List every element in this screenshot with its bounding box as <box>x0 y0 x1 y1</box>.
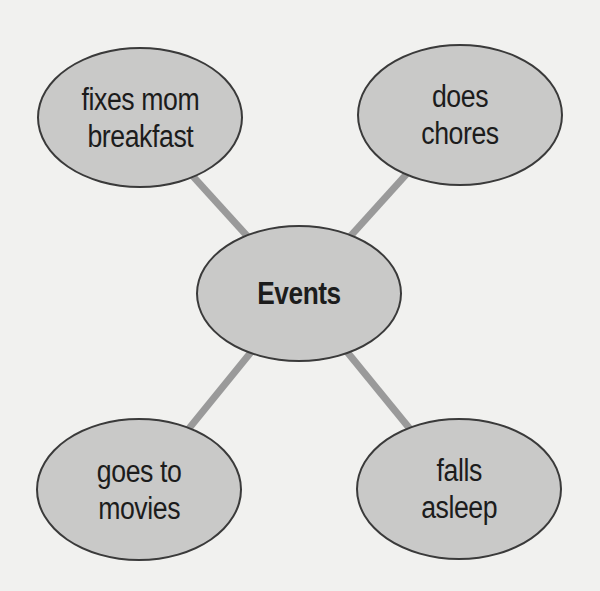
center-label: Events <box>257 275 341 312</box>
node-label: does chores <box>421 78 498 152</box>
node-label: fixes mom breakfast <box>81 81 199 155</box>
node-top-left: fixes mom breakfast <box>37 47 243 188</box>
label-line: asleep <box>421 489 497 526</box>
node-bottom-left: goes to movies <box>36 418 242 561</box>
event-web-diagram: fixes mom breakfast does chores Events g… <box>0 0 600 591</box>
node-label: goes to movies <box>97 453 181 527</box>
node-top-right: does chores <box>357 44 563 186</box>
label-line: chores <box>421 115 498 152</box>
label-line: does <box>421 78 498 115</box>
node-center-events: Events <box>196 225 402 362</box>
label-line: movies <box>97 490 181 527</box>
node-bottom-right: falls asleep <box>356 418 562 560</box>
label-line: fixes mom <box>81 81 199 118</box>
label-line: breakfast <box>81 118 199 155</box>
node-label: falls asleep <box>421 452 497 526</box>
label-line: falls <box>421 452 497 489</box>
label-line: goes to <box>97 453 181 490</box>
